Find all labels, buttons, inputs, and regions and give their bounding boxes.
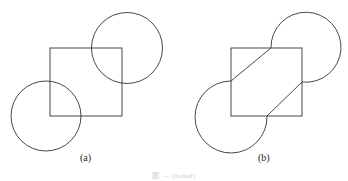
- figure-canvas: [0, 0, 348, 181]
- panel-b-label: (b): [258, 152, 270, 163]
- diagonal-upper-b: [231, 48, 271, 81]
- panel-a: [11, 13, 163, 152]
- square-b: [231, 48, 302, 116]
- figure-caption: 图 — (faded): [0, 170, 348, 180]
- diagonal-lower-b: [267, 82, 302, 116]
- panel-a-label: (a): [80, 152, 91, 163]
- square-a: [50, 48, 122, 116]
- panel-b: [195, 12, 341, 153]
- arc-top-right-b: [271, 12, 341, 82]
